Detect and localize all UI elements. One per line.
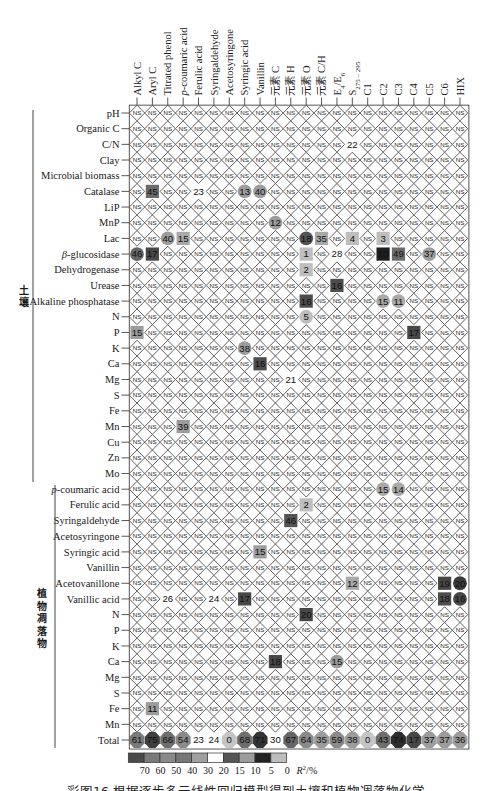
significant-cell: 5 <box>299 310 313 324</box>
ns-label: NS <box>148 642 157 649</box>
ns-label: NS <box>210 235 219 242</box>
ns-cell: NS <box>314 403 329 419</box>
ns-label: NS <box>394 109 403 116</box>
ns-label: NS <box>271 329 280 336</box>
ns-label: NS <box>333 188 342 195</box>
ns-cell: NS <box>237 403 252 419</box>
ns-cell: NS <box>237 419 252 435</box>
ns-cell: NS <box>222 607 237 623</box>
ns-label: NS <box>271 282 280 289</box>
significant-cell: 40 <box>161 232 175 246</box>
ns-label: NS <box>210 266 219 273</box>
ns-cell: NS <box>422 544 437 560</box>
ns-label: NS <box>379 423 388 430</box>
ns-label: NS <box>379 564 388 571</box>
ns-cell: NS <box>252 450 267 466</box>
ns-cell: NS <box>360 591 375 607</box>
ns-cell: NS <box>145 231 160 247</box>
label-fragment: 物 <box>37 600 47 612</box>
ns-label: NS <box>302 595 311 602</box>
ns-label: NS <box>286 219 295 226</box>
table-row: NSNSNSNSNSNSNSNSNS18NSNSNS15NSNSNSNSNSNS… <box>129 654 467 670</box>
ns-cell: NS <box>222 575 237 591</box>
ns-cell: NS <box>345 168 360 184</box>
table-row: NSNSNSNSNSNSNSNSNSNSNS2NSNSNSNSNSNSNSNSN… <box>129 262 467 278</box>
ns-cell: NS <box>298 403 313 419</box>
ns-cell: NS <box>191 262 206 278</box>
ns-cell: NS <box>329 340 344 356</box>
ns-cell: NS <box>160 575 175 591</box>
ns-label: NS <box>210 501 219 508</box>
table-row: NSNSNSNSNSNSNSNSNSNSNSNSNSNSNSNSNSNSNSNS… <box>129 685 467 701</box>
ns-label: NS <box>133 156 142 163</box>
ns-label: NS <box>317 626 326 633</box>
ns-label: NS <box>394 454 403 461</box>
ns-label: NS <box>163 689 172 696</box>
label-fragment: -coumaric acid <box>178 27 189 90</box>
ns-label: NS <box>256 674 265 681</box>
ns-cell: NS <box>145 528 160 544</box>
ns-label: NS <box>333 376 342 383</box>
ns-cell: NS <box>298 560 313 576</box>
ns-cell: NS <box>314 654 329 670</box>
r2-value: 37 <box>424 248 435 259</box>
ns-cell: NS <box>175 434 190 450</box>
ns-label: NS <box>210 141 219 148</box>
ns-cell: NS <box>314 528 329 544</box>
ns-label: NS <box>286 564 295 571</box>
label-fragment: 植 <box>36 587 47 599</box>
ns-cell: NS <box>391 215 406 231</box>
table-row: NSNSNSNSNSNSNSNSNSNS21NSNSNSNSNSNSNSNSNS… <box>129 372 467 388</box>
ns-cell: NS <box>160 372 175 388</box>
ns-cell: NS <box>237 544 252 560</box>
table-row: NSNSNSNSNSNSNSNSNSNSNS5NSNSNSNSNSNSNSNSN… <box>129 309 467 325</box>
ns-label: NS <box>271 626 280 633</box>
ns-cell: NS <box>160 622 175 638</box>
ns-cell: NS <box>391 685 406 701</box>
row-label: N <box>112 609 120 620</box>
ns-cell: NS <box>160 293 175 309</box>
ns-cell: NS <box>345 622 360 638</box>
ns-cell: NS <box>222 638 237 654</box>
ns-label: NS <box>302 376 311 383</box>
ns-cell: NS <box>206 152 221 168</box>
ns-cell: NS <box>160 278 175 294</box>
ns-label: NS <box>440 470 449 477</box>
ns-cell: NS <box>437 716 452 732</box>
label-fragment: 元素 C <box>269 66 281 96</box>
ns-label: NS <box>379 517 388 524</box>
ns-label: NS <box>240 532 249 539</box>
ns-label: NS <box>394 188 403 195</box>
ns-cell: NS <box>191 356 206 372</box>
ns-cell: NS <box>437 419 452 435</box>
legend-tick-label: 20 <box>219 765 229 776</box>
ns-label: NS <box>271 407 280 414</box>
ns-cell: NS <box>329 481 344 497</box>
label-fragment: 元素 C/H <box>315 55 327 96</box>
ns-label: NS <box>394 579 403 586</box>
ns-label: NS <box>333 548 342 555</box>
ns-cell: NS <box>298 137 313 153</box>
ns-label: NS <box>425 297 434 304</box>
ns-cell: NS <box>314 356 329 372</box>
ns-cell: NS <box>283 528 298 544</box>
ns-label: NS <box>302 141 311 148</box>
ns-cell: NS <box>206 105 221 121</box>
ns-label: NS <box>425 376 434 383</box>
ns-label: NS <box>302 423 311 430</box>
ns-cell: NS <box>160 419 175 435</box>
label-fragment: pH <box>107 108 120 119</box>
ns-label: NS <box>333 532 342 539</box>
ns-cell: NS <box>222 591 237 607</box>
ns-cell: NS <box>268 152 283 168</box>
ns-cell: NS <box>283 654 298 670</box>
table-row: NSNSNSNSNSNSNSNS15NSNSNSNSNSNSNSNSNSNSNS… <box>129 544 467 560</box>
ns-label: NS <box>194 485 203 492</box>
ns-label: NS <box>363 642 372 649</box>
ns-cell: NS <box>283 105 298 121</box>
ns-cell: NS <box>329 231 344 247</box>
significant-cell: 1 <box>300 247 313 260</box>
ns-label: NS <box>225 517 234 524</box>
row-label: Lac <box>104 233 120 244</box>
ns-label: NS <box>194 658 203 665</box>
